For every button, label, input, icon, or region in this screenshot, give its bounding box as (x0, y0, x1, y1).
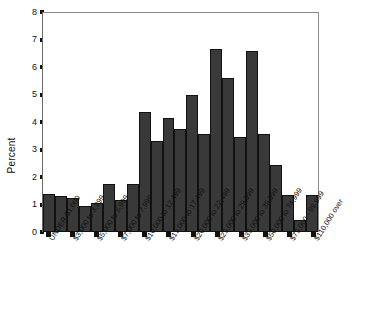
y-axis: Percent 012345678 (0, 0, 42, 244)
y-tick-label: 3 (32, 145, 40, 154)
y-tick-label: 6 (32, 63, 40, 72)
plot-area (42, 12, 319, 232)
y-tick-label: 4 (32, 118, 40, 127)
histogram-chart: Percent 012345678 UNDER $1,000$3,000 to … (0, 0, 370, 311)
y-tick-label: 1 (32, 200, 40, 209)
bar (246, 51, 258, 233)
y-tick-label: 2 (32, 173, 40, 182)
x-label-group: UNDER $1,000$3,000 to 3,999$5,000 to 5,9… (42, 238, 319, 311)
y-tick-label: 8 (32, 8, 40, 17)
y-axis-title: Percent (6, 121, 17, 191)
bar-series (43, 13, 318, 232)
y-tick-label: 0 (32, 228, 40, 237)
x-axis: UNDER $1,000$3,000 to 3,999$5,000 to 5,9… (42, 232, 319, 311)
y-tick-label: 5 (32, 90, 40, 99)
y-tick-label: 7 (32, 35, 40, 44)
